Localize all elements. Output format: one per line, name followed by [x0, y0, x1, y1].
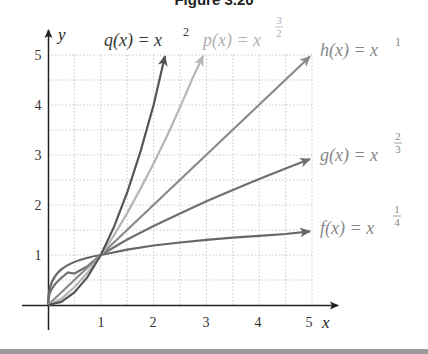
x-tick-5: 5 [306, 315, 313, 330]
x-tick-labels: 1 2 3 4 5 [98, 315, 313, 330]
svg-text:g(x) = x: g(x) = x [320, 145, 378, 166]
y-tick-1: 1 [35, 248, 42, 263]
svg-text:q(x) = x: q(x) = x [104, 30, 162, 51]
y-tick-labels: 1 2 3 4 5 [35, 48, 42, 263]
svg-text:2: 2 [183, 25, 189, 39]
label-q: q(x) = x 2 [104, 25, 189, 51]
y-tick-4: 4 [35, 98, 42, 113]
bottom-divider-bar [0, 349, 428, 354]
svg-text:1: 1 [395, 35, 401, 49]
svg-text:2: 2 [395, 130, 401, 142]
svg-text:2: 2 [276, 27, 282, 39]
x-axis-label: x [321, 313, 330, 332]
x-tick-2: 2 [150, 315, 157, 330]
x-tick-4: 4 [255, 315, 262, 330]
x-tick-3: 3 [203, 315, 210, 330]
svg-text:4: 4 [394, 216, 400, 228]
svg-text:h(x) = x: h(x) = x [320, 40, 378, 61]
svg-text:3: 3 [276, 14, 282, 26]
label-h: h(x) = x 1 [320, 35, 401, 61]
y-tick-2: 2 [35, 198, 42, 213]
label-f: f(x) = x 1 4 [320, 203, 401, 239]
y-axis-label: y [56, 25, 66, 44]
svg-text:3: 3 [395, 143, 401, 155]
curve-h [48, 57, 310, 306]
y-tick-5: 5 [35, 48, 42, 63]
svg-text:f(x) = x: f(x) = x [320, 218, 374, 239]
svg-text:p(x) = x: p(x) = x [201, 30, 261, 51]
svg-text:1: 1 [394, 203, 400, 215]
x-tick-1: 1 [98, 315, 105, 330]
label-g: g(x) = x 2 3 [320, 130, 402, 166]
power-functions-chart: 1 2 3 4 5 1 2 3 4 5 y x q(x) = x 2 p(x) … [0, 0, 428, 354]
label-p: p(x) = x 3 2 [201, 14, 283, 51]
y-tick-3: 3 [35, 148, 42, 163]
